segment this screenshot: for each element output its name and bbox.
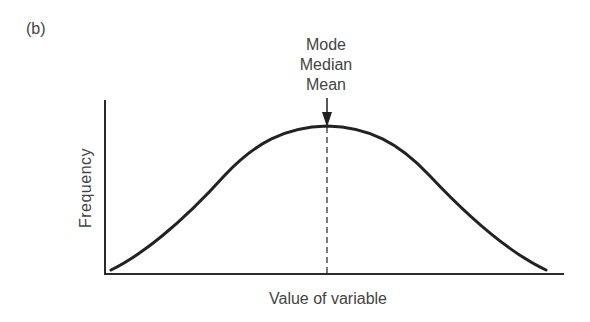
x-axis-label: Value of variable: [218, 290, 438, 308]
distribution-curve: [111, 126, 546, 270]
y-axis-label: Frequency: [77, 148, 95, 228]
